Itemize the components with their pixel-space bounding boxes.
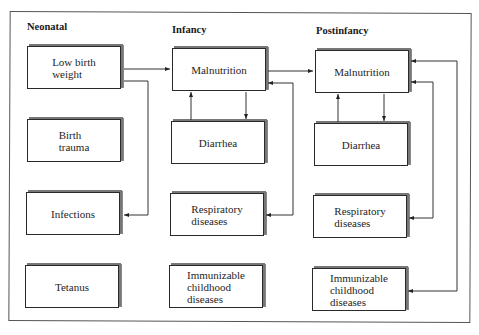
arrow-infancy-respiratory-to-malnutrition xyxy=(268,83,293,215)
arrow-postinfancy-immunizable-to-malnutrition xyxy=(411,61,457,291)
arrow-lbw-to-infections xyxy=(124,81,148,215)
connector-arrows xyxy=(0,0,479,335)
arrow-postinfancy-respiratory-to-malnutrition xyxy=(411,82,433,218)
